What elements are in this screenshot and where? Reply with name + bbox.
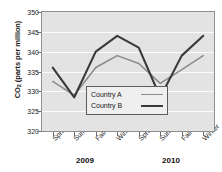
y-tick-label-345: 345: [15, 28, 39, 35]
y-tick-label-320: 320: [15, 128, 39, 135]
legend-swatch-country-b: [141, 105, 163, 107]
y-tick-label-340: 340: [15, 48, 39, 55]
legend: Country A Country B: [86, 86, 168, 115]
y-tick-label-325: 325: [15, 108, 39, 115]
legend-item-country-a: Country A: [91, 89, 163, 100]
legend-swatch-country-a: [141, 94, 163, 95]
year-label-2009: 2009: [76, 156, 94, 165]
y-tick-label-350: 350: [15, 9, 39, 16]
legend-label-country-a: Country A: [91, 91, 137, 98]
y-tick-label-335: 335: [15, 68, 39, 75]
y-axis-title: CO2 (parts per million): [13, 7, 22, 113]
y-axis-title-subscript: 2: [16, 84, 22, 87]
legend-label-country-b: Country B: [91, 102, 137, 109]
y-tick-label-330: 330: [15, 88, 39, 95]
legend-item-country-b: Country B: [91, 100, 163, 111]
co2-line-chart: CO2 (parts per million) 3203253303353403…: [0, 0, 222, 172]
year-label-2010: 2010: [162, 156, 180, 165]
